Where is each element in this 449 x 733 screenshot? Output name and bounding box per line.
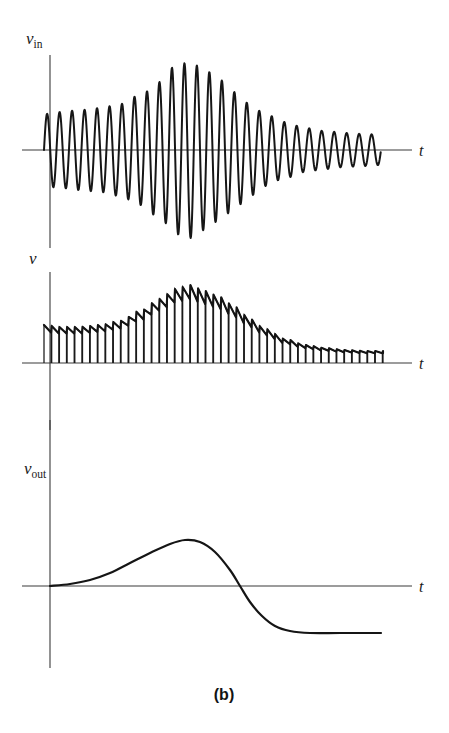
input-waveform (44, 63, 381, 238)
detected-t-axis-label: t (419, 355, 424, 372)
figure-caption: (b) (214, 686, 234, 703)
panel-detected: v t (22, 249, 424, 430)
output-y-axis-label: vout (24, 459, 47, 480)
panel-input: vin t (22, 29, 424, 248)
waveform-figure: vin t v t vout t (b) (0, 0, 449, 733)
input-t-axis-label: t (419, 142, 424, 159)
detected-y-axis-label: v (29, 249, 37, 268)
panel-output: vout t (22, 420, 424, 668)
output-t-axis-label: t (419, 578, 424, 595)
input-y-axis-label: vin (26, 29, 43, 50)
